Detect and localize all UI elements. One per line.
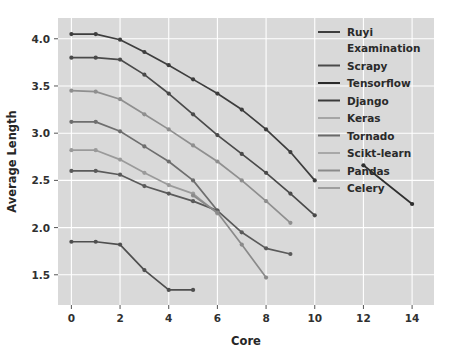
data-point bbox=[142, 50, 146, 54]
data-point bbox=[264, 246, 268, 250]
data-point bbox=[264, 276, 268, 280]
x-tick-label: 10 bbox=[307, 312, 322, 324]
legend-label: Examination bbox=[347, 42, 420, 54]
legend-label: Celery bbox=[347, 182, 385, 194]
x-tick-label: 0 bbox=[68, 312, 75, 324]
data-point bbox=[191, 199, 195, 203]
legend-label: Django bbox=[347, 95, 389, 107]
x-tick-label: 8 bbox=[262, 312, 269, 324]
data-point bbox=[288, 150, 292, 154]
data-point bbox=[240, 242, 244, 246]
data-point bbox=[94, 169, 98, 173]
data-point bbox=[191, 77, 195, 81]
data-point bbox=[142, 184, 146, 188]
data-point bbox=[215, 133, 219, 137]
data-point bbox=[69, 56, 73, 60]
data-point bbox=[264, 199, 268, 203]
legend-label: Pandas bbox=[347, 165, 390, 177]
data-point bbox=[264, 171, 268, 175]
chart-figure: 024681012141.52.02.53.03.54.0 Core Avera… bbox=[0, 0, 455, 364]
data-point bbox=[215, 159, 219, 163]
data-point bbox=[94, 90, 98, 94]
data-point bbox=[167, 288, 171, 292]
data-point bbox=[191, 288, 195, 292]
data-point bbox=[142, 112, 146, 116]
data-point bbox=[118, 97, 122, 101]
x-axis-label: Core bbox=[231, 334, 261, 348]
data-point bbox=[410, 202, 414, 206]
data-point bbox=[94, 32, 98, 36]
data-point bbox=[167, 183, 171, 187]
y-tick-label: 1.5 bbox=[31, 269, 50, 281]
data-point bbox=[240, 152, 244, 156]
data-point bbox=[142, 144, 146, 148]
data-point bbox=[167, 192, 171, 196]
data-point bbox=[94, 148, 98, 152]
data-point bbox=[167, 91, 171, 95]
legend-label: Tensorflow bbox=[347, 77, 411, 89]
data-point bbox=[142, 171, 146, 175]
data-point bbox=[264, 127, 268, 131]
data-point bbox=[69, 32, 73, 36]
data-point bbox=[240, 178, 244, 182]
legend-label: Scrapy bbox=[347, 60, 388, 72]
data-point bbox=[142, 268, 146, 272]
data-point bbox=[288, 221, 292, 225]
x-tick-label: 4 bbox=[165, 312, 172, 324]
data-point bbox=[215, 210, 219, 214]
data-point bbox=[240, 230, 244, 234]
data-point bbox=[191, 193, 195, 197]
data-point bbox=[94, 120, 98, 124]
data-point bbox=[94, 56, 98, 60]
y-tick-label: 3.5 bbox=[31, 80, 50, 92]
line-chart: 024681012141.52.02.53.03.54.0 Core Avera… bbox=[0, 0, 455, 364]
legend-label: Scikt-learn bbox=[347, 147, 411, 159]
y-tick-label: 4.0 bbox=[31, 33, 50, 45]
legend-label: Keras bbox=[347, 112, 381, 124]
data-point bbox=[118, 129, 122, 133]
data-point bbox=[167, 127, 171, 131]
y-tick-label: 3.0 bbox=[31, 127, 50, 139]
data-point bbox=[69, 89, 73, 93]
data-point bbox=[288, 192, 292, 196]
data-point bbox=[191, 178, 195, 182]
data-point bbox=[313, 213, 317, 217]
data-point bbox=[69, 148, 73, 152]
data-point bbox=[240, 107, 244, 111]
data-point bbox=[94, 240, 98, 244]
data-point bbox=[215, 91, 219, 95]
data-point bbox=[167, 159, 171, 163]
data-point bbox=[118, 173, 122, 177]
y-tick-label: 2.5 bbox=[31, 174, 50, 186]
x-tick-label: 14 bbox=[405, 312, 420, 324]
data-point bbox=[118, 158, 122, 162]
data-point bbox=[313, 178, 317, 182]
data-point bbox=[118, 57, 122, 61]
y-axis-label: Average Length bbox=[5, 110, 19, 212]
data-point bbox=[69, 169, 73, 173]
x-tick-label: 2 bbox=[116, 312, 123, 324]
data-point bbox=[288, 252, 292, 256]
y-tick-label: 2.0 bbox=[31, 222, 50, 234]
x-tick-label: 12 bbox=[356, 312, 371, 324]
data-point bbox=[118, 38, 122, 42]
x-tick-label: 6 bbox=[214, 312, 221, 324]
data-point bbox=[191, 143, 195, 147]
data-point bbox=[69, 120, 73, 124]
data-point bbox=[191, 112, 195, 116]
legend-label: Ruyi bbox=[347, 26, 373, 38]
data-point bbox=[142, 73, 146, 77]
legend-label: Tornado bbox=[347, 130, 394, 142]
data-point bbox=[167, 63, 171, 67]
data-point bbox=[69, 240, 73, 244]
data-point bbox=[118, 242, 122, 246]
